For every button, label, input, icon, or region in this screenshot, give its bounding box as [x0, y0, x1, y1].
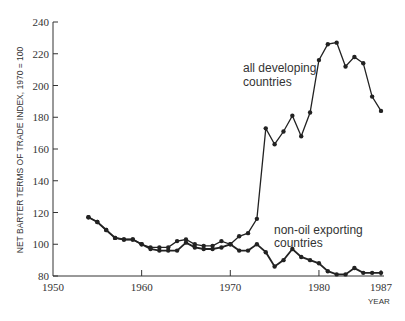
data-point — [157, 248, 161, 252]
data-point — [326, 42, 330, 46]
y-tick-label: 120 — [33, 207, 50, 219]
data-point — [317, 261, 321, 265]
y-tick-label: 160 — [33, 143, 50, 155]
data-point — [166, 248, 170, 252]
series-label-all-developing-1: all developing — [243, 61, 316, 75]
x-tick-label: 1950 — [42, 281, 65, 293]
data-point — [219, 245, 223, 249]
data-point — [193, 245, 197, 249]
data-point — [343, 272, 347, 276]
series-lines — [86, 40, 383, 276]
data-point — [308, 110, 312, 114]
data-point — [246, 231, 250, 235]
y-tick-label: 140 — [33, 175, 50, 187]
data-point — [139, 242, 143, 246]
x-tick-label: 1987 — [370, 281, 393, 293]
data-point — [343, 64, 347, 68]
data-point — [237, 234, 241, 238]
data-point — [352, 266, 356, 270]
data-point — [264, 250, 268, 254]
data-point — [131, 237, 135, 241]
data-point — [281, 129, 285, 133]
data-point — [175, 239, 179, 243]
data-point — [370, 271, 374, 275]
data-point — [104, 228, 108, 232]
x-axis-label: YEAR — [368, 297, 390, 306]
data-point — [317, 58, 321, 62]
series-label-non-oil-1: non-oil exporting — [274, 223, 363, 237]
data-point — [299, 134, 303, 138]
data-point — [122, 237, 126, 241]
data-point — [326, 269, 330, 273]
data-point — [184, 240, 188, 244]
data-point — [95, 220, 99, 224]
data-point — [246, 248, 250, 252]
axes: 8010012014016018020022024019501960197019… — [33, 16, 393, 293]
data-point — [379, 109, 383, 113]
data-point — [202, 247, 206, 251]
data-point — [113, 236, 117, 240]
data-point — [308, 258, 312, 262]
data-point — [175, 248, 179, 252]
data-point — [361, 271, 365, 275]
data-point — [361, 61, 365, 65]
data-point — [148, 247, 152, 251]
series-label-all-developing-2: countries — [243, 75, 292, 89]
y-axis-label: NET BARTER TERMS OF TRADE INDEX, 1970 = … — [15, 46, 25, 253]
data-point — [219, 239, 223, 243]
y-tick-label: 220 — [33, 48, 50, 60]
data-point — [290, 113, 294, 117]
data-point — [237, 248, 241, 252]
data-point — [281, 258, 285, 262]
data-point — [86, 215, 90, 219]
data-point — [334, 272, 338, 276]
data-point — [264, 126, 268, 130]
data-point — [272, 264, 276, 268]
series-line — [89, 43, 382, 248]
data-point — [370, 94, 374, 98]
series-label-non-oil-2: countries — [274, 236, 323, 250]
x-tick-label: 1970 — [219, 281, 242, 293]
data-point — [299, 255, 303, 259]
x-tick-label: 1960 — [131, 281, 154, 293]
y-tick-label: 100 — [33, 238, 50, 250]
data-point — [379, 271, 383, 275]
data-point — [210, 247, 214, 251]
terms-of-trade-chart: 8010012014016018020022024019501960197019… — [0, 0, 405, 321]
data-point — [352, 55, 356, 59]
x-tick-label: 1980 — [308, 281, 331, 293]
y-tick-label: 180 — [33, 111, 50, 123]
data-point — [228, 242, 232, 246]
data-point — [255, 242, 259, 246]
data-point — [255, 217, 259, 221]
data-point — [334, 40, 338, 44]
y-tick-label: 200 — [33, 80, 50, 92]
data-point — [272, 142, 276, 146]
y-tick-label: 240 — [33, 16, 50, 28]
